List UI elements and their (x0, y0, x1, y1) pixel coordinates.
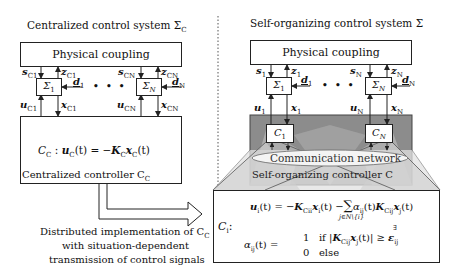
communication-network-label: Communication network (270, 153, 401, 164)
signal-d-N-right: dN (402, 75, 415, 88)
formula-line2-lhs: αij(t) = (244, 240, 278, 253)
signal-d-N: dN (172, 77, 185, 90)
self-organizing-controller-label: Self-organizing controller C (252, 170, 393, 180)
implementation-arrow (99, 183, 202, 226)
signal-s-CN: sCN (118, 67, 135, 80)
signal-s-N: sN (350, 66, 362, 79)
signal-s-C1: sC1 (22, 67, 37, 80)
signal-s-1: s1 (256, 66, 266, 79)
formula-case-2: 0 else (303, 248, 339, 258)
signal-x-N: xN (391, 103, 403, 116)
physical-coupling-box-left: Physical coupling (20, 42, 182, 67)
signal-u-CN: uCN (117, 100, 136, 113)
ellipsis-left: • • • (93, 82, 127, 91)
subsystem-N-box-right: ΣN (365, 77, 392, 95)
arrow-caption-line1: Distributed implementation of CC (40, 227, 210, 240)
signal-u-1: u1 (254, 103, 266, 116)
signal-d-1: d1 (73, 77, 84, 90)
subsystem-N-box-left: ΣN (136, 78, 162, 96)
sum-index: j∈N\{i} (339, 214, 364, 221)
left-title: Centralized control system ΣC (27, 20, 186, 34)
signal-x-1: x1 (291, 103, 301, 116)
arrow-caption-line3: transmission of control signals (49, 255, 205, 265)
right-title: Self-organizing control system Σ (250, 18, 423, 29)
signal-d-1-right: d1 (301, 75, 312, 88)
centralized-control-law: CC : uC(t) = −KCxC(t) (38, 145, 150, 159)
formula-lhs: Ci: (218, 221, 232, 235)
formula-line1: ui(t) = −KCiixi(t) −∑αij(t)KCijxj(t) (250, 199, 413, 215)
ellipsis-right: • • • (322, 81, 356, 90)
centralized-controller-label: Centralized controller CC (22, 170, 150, 183)
formula-case-1: 1 if |KCijxj(t)| ≥ εij (303, 233, 398, 246)
signal-x-CN: xCN (161, 100, 178, 113)
signal-u-C1: uC1 (20, 100, 37, 113)
signal-z-1: z1 (291, 66, 301, 79)
local-controller-N: CN (365, 124, 393, 143)
local-controller-1: C1 (266, 124, 294, 143)
arrow-caption-line2: with situation-dependent (62, 241, 189, 251)
signal-x-C1: xC1 (61, 100, 77, 113)
signal-u-N: uN (350, 103, 363, 116)
subsystem-1-box-left: Σ1 (36, 78, 62, 96)
physical-coupling-box-right: Physical coupling (250, 40, 412, 65)
subsystem-1-box-right: Σ1 (266, 77, 292, 95)
exists-symbol: ∃ (393, 225, 397, 232)
